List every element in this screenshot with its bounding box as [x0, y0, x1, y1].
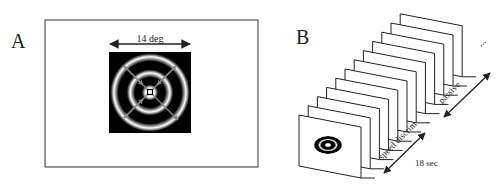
- figure-canvas: 14 deg speed discrim 18 sec passive ...: [0, 0, 502, 184]
- fixation-point-icon: [148, 90, 153, 95]
- duration-label: 18 sec: [415, 158, 438, 168]
- front-frame-stimulus: [314, 136, 342, 154]
- panel-a: 14 deg: [45, 20, 258, 167]
- continuation-ellipsis: ...: [475, 35, 488, 48]
- width-label: 14 deg: [137, 33, 164, 44]
